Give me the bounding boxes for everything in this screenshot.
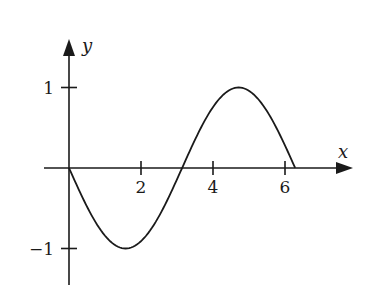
x-axis — [44, 162, 353, 174]
x-axis-label: x — [338, 141, 348, 162]
x-ticks: 246 — [136, 161, 291, 197]
x-tick-label: 2 — [136, 177, 147, 197]
function-graph: 246 1−1 x y — [0, 0, 365, 296]
y-axis-arrow-icon — [63, 39, 75, 56]
x-tick-label: 4 — [208, 177, 219, 197]
y-tick-label: −1 — [29, 239, 54, 259]
y-tick-label: 1 — [43, 78, 54, 98]
x-tick-label: 6 — [280, 177, 291, 197]
y-axis-label: y — [81, 35, 93, 56]
x-axis-arrow-icon — [336, 162, 353, 174]
